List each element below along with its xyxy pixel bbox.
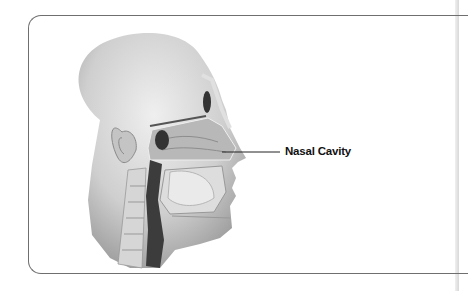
label-nasal-cavity: Nasal Cavity: [285, 145, 351, 157]
